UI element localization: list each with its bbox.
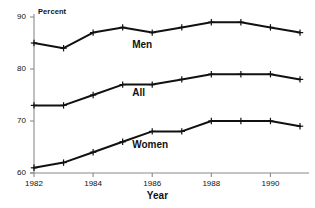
data-point-marker (149, 128, 155, 134)
series-label-all: All (132, 87, 145, 98)
data-point-marker (119, 139, 125, 145)
data-point-marker (179, 24, 185, 30)
axes (30, 14, 309, 177)
data-point-marker (119, 81, 125, 87)
data-point-marker (179, 76, 185, 82)
y-tick-label: 60 (4, 168, 26, 177)
x-tick-label: 1986 (132, 179, 172, 188)
series-line-men (34, 22, 300, 48)
x-axis-title: Year (0, 190, 315, 201)
data-point-marker (149, 81, 155, 87)
data-point-marker (267, 24, 273, 30)
line-chart: Percent Year 60708090 198219841986198819… (0, 0, 315, 208)
data-point-marker (90, 92, 96, 98)
y-axis-title: Percent (38, 7, 66, 16)
data-point-marker (208, 19, 214, 25)
data-point-marker (267, 118, 273, 124)
data-point-marker (238, 118, 244, 124)
data-point-marker (31, 40, 37, 46)
data-point-marker (31, 165, 37, 171)
data-point-marker (238, 19, 244, 25)
series-line-all (34, 74, 300, 105)
y-tick-label: 70 (4, 116, 26, 125)
series-label-women: Women (132, 139, 168, 150)
data-point-marker (238, 71, 244, 77)
data-point-marker (60, 102, 66, 108)
x-tick-label: 1990 (250, 179, 290, 188)
data-point-marker (60, 159, 66, 165)
data-point-marker (31, 102, 37, 108)
data-point-marker (149, 29, 155, 35)
data-point-marker (90, 149, 96, 155)
x-tick-label: 1988 (191, 179, 231, 188)
data-point-marker (297, 76, 303, 82)
data-point-marker (297, 123, 303, 129)
data-point-marker (208, 118, 214, 124)
data-point-marker (208, 71, 214, 77)
data-point-marker (267, 71, 273, 77)
y-tick-label: 90 (4, 12, 26, 21)
data-point-marker (297, 29, 303, 35)
y-tick-label: 80 (4, 64, 26, 73)
data-point-marker (179, 128, 185, 134)
series-label-men: Men (132, 39, 152, 50)
data-point-marker (119, 24, 125, 30)
plot-area (0, 0, 315, 208)
x-tick-label: 1984 (73, 179, 113, 188)
x-tick-label: 1982 (14, 179, 54, 188)
